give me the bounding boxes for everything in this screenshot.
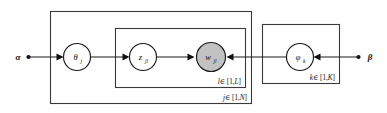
edge-theta-to-z-arrowhead — [123, 53, 130, 60]
edge-z-to-w-arrowhead — [188, 53, 195, 60]
plate-j-close: ] — [245, 94, 247, 102]
plate-l-member: ∈ [1, — [220, 78, 235, 86]
plate-j-label: j∈ [1,N] — [222, 94, 247, 102]
plate-k-member: ∈ [1, — [313, 74, 328, 82]
node-theta-subscript: j — [80, 58, 83, 64]
node-z-circle — [130, 44, 157, 71]
edge-alpha-to-theta-arrowhead — [57, 53, 64, 60]
plate-notation-diagram: α β θ j z jl w jl φ k l∈ [1,L] j∈ [1,N] … — [0, 0, 387, 113]
plate-l-close: ] — [239, 78, 241, 86]
node-w-label: w — [205, 52, 211, 62]
alpha-label: α — [16, 52, 22, 62]
node-w-subscript: jl — [213, 58, 218, 64]
edge-beta-to-phi-arrowhead — [314, 53, 321, 60]
node-z-subscript: jl — [144, 58, 149, 64]
plate-l-label: l∈ [1,L] — [218, 78, 241, 86]
node-z-label: z — [138, 52, 143, 62]
plate-j-member: ∈ [1, — [225, 94, 240, 102]
plate-k-label: k∈ [1,K] — [310, 74, 335, 82]
alpha-endpoint-dot — [26, 55, 30, 59]
node-theta-label: θ — [73, 52, 77, 62]
plate-k-close: ] — [333, 74, 335, 82]
beta-endpoint-dot — [356, 55, 360, 59]
plate-diagram-container: α β θ j z jl w jl φ k l∈ [1,L] j∈ [1,N] … — [0, 0, 387, 113]
beta-label: β — [367, 52, 373, 62]
node-w-circle — [197, 43, 226, 72]
node-phi-label: φ — [296, 52, 301, 62]
edge-phi-to-w-arrowhead — [227, 53, 234, 60]
